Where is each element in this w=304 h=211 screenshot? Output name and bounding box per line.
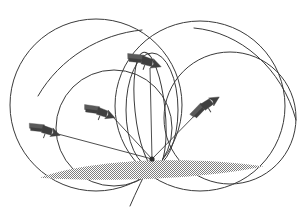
- satellite-antenna-mast: [208, 108, 211, 112]
- sight-line-to-satellite-right: [152, 110, 200, 159]
- satellite-antenna-mast: [43, 134, 45, 138]
- sight-line-to-satellite-left-upper: [113, 117, 152, 159]
- ground-station: [149, 156, 154, 161]
- ground-station-node: [149, 156, 154, 161]
- satellite-antenna-mast: [143, 65, 145, 70]
- sight-line-to-satellite-top: [150, 68, 152, 159]
- satellite-orbit-diagram: [0, 0, 304, 211]
- diagram-canvas: [0, 0, 304, 211]
- satellite-left-upper: [81, 101, 117, 125]
- satellite-right: [188, 93, 224, 122]
- satellite-antenna-mast: [98, 116, 100, 120]
- sight-line-to-satellite-left-lower: [58, 134, 152, 159]
- ground-footprint: [40, 160, 264, 179]
